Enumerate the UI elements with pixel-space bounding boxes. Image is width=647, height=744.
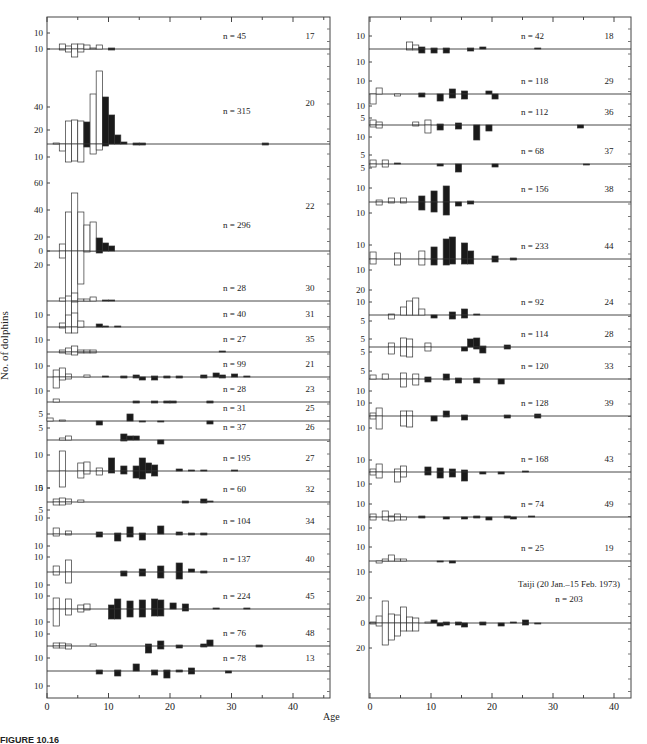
caption-label: FIGURE 10.16 bbox=[0, 735, 59, 744]
y-tick-label: 10 bbox=[34, 310, 44, 320]
school-id-label: 34 bbox=[306, 516, 316, 526]
school-id-label: 22 bbox=[306, 201, 315, 211]
y-tick-label: 10 bbox=[356, 398, 366, 408]
school-26: 5n = 3726 bbox=[39, 422, 331, 440]
figure-caption: FIGURE 10.16 bbox=[0, 735, 59, 744]
school-id-label: 24 bbox=[605, 297, 615, 307]
histogram-bars bbox=[53, 498, 213, 505]
x-tick-label: 20 bbox=[165, 701, 175, 712]
sample-size-label: n = 224 bbox=[223, 591, 251, 601]
sample-size-label: n = 128 bbox=[521, 398, 549, 408]
school-id-label: 38 bbox=[605, 184, 615, 194]
school-id-label: 35 bbox=[306, 334, 316, 344]
sample-size-label: n = 120 bbox=[521, 361, 549, 371]
y-tick-label: 10 bbox=[34, 629, 44, 639]
histogram-bars bbox=[59, 346, 225, 355]
y-tick-label: 10 bbox=[34, 152, 44, 162]
x-tick-label: 20 bbox=[487, 701, 497, 712]
histogram-bars bbox=[47, 414, 213, 425]
y-tick-label: 10 bbox=[34, 541, 44, 551]
x-tick-label: 10 bbox=[426, 701, 436, 712]
y-tick-label: 5 bbox=[361, 347, 366, 357]
sample-size-label: n = 28 bbox=[223, 283, 247, 293]
histogram-bars bbox=[59, 44, 114, 57]
school-id-label: 21 bbox=[306, 359, 315, 369]
school-21: 10n = 9921 bbox=[34, 359, 330, 377]
school-37: 55n = 6837 bbox=[361, 146, 632, 173]
school-location-label: Taiji (20 Jan.–15 Feb. 1973) bbox=[518, 579, 620, 589]
sample-size-label: n = 28 bbox=[223, 384, 247, 394]
y-tick-label: 0 bbox=[361, 618, 366, 628]
sample-size-label: n = 78 bbox=[223, 653, 247, 663]
histogram-bars bbox=[370, 601, 541, 645]
sample-size-label: n = 31 bbox=[223, 403, 246, 413]
y-tick-label: 10 bbox=[356, 132, 366, 142]
y-tick-label: 20 bbox=[34, 260, 44, 270]
y-tick-label: 20 bbox=[356, 285, 366, 295]
sample-size-label: n = 112 bbox=[521, 107, 548, 117]
x-tick-label: 40 bbox=[609, 701, 619, 712]
y-tick-label: 10 bbox=[34, 513, 44, 523]
x-tick-label: 40 bbox=[288, 701, 298, 712]
y-tick-label: 10 bbox=[356, 101, 366, 111]
y-tick-label: 10 bbox=[356, 183, 366, 193]
chart-canvas: 0102030401010n = 4517402010n = 315206040… bbox=[0, 0, 647, 744]
histogram-bars bbox=[59, 193, 114, 322]
y-tick-label: 10 bbox=[356, 455, 366, 465]
sample-size-label: n = 315 bbox=[223, 106, 251, 116]
histogram-bars bbox=[370, 464, 529, 482]
y-tick-label: 5 bbox=[39, 483, 44, 493]
histogram-bars bbox=[370, 237, 516, 265]
histogram-bars bbox=[407, 42, 541, 53]
sample-size-label: n = 137 bbox=[223, 554, 251, 564]
y-tick-label: 10 bbox=[34, 335, 44, 345]
y-tick-label: 5 bbox=[361, 113, 366, 123]
histogram-bars bbox=[376, 186, 474, 215]
histogram-bars bbox=[370, 373, 504, 387]
school-id-label: 44 bbox=[605, 241, 615, 251]
y-tick-label: 10 bbox=[34, 681, 44, 691]
school-29: 1010n = 11829 bbox=[356, 76, 631, 111]
school-32: 55n = 6032 bbox=[39, 483, 331, 515]
y-tick-label: 10 bbox=[34, 591, 44, 601]
sample-size-label: n = 296 bbox=[223, 220, 251, 230]
panel-right: 0102030401010n = 42181010n = 11829510n =… bbox=[356, 17, 631, 712]
y-tick-label: 10 bbox=[356, 265, 366, 275]
y-tick-label: 10 bbox=[356, 523, 366, 533]
y-tick-label: 10 bbox=[34, 450, 44, 460]
y-tick-label: 40 bbox=[34, 205, 44, 215]
y-tick-label: 10 bbox=[356, 567, 366, 577]
school-id-label: 36 bbox=[605, 107, 615, 117]
school-38: 1010n = 15638 bbox=[356, 183, 631, 218]
school-id-label: 45 bbox=[306, 591, 316, 601]
histogram-bars bbox=[370, 160, 590, 172]
school-36: 510n = 11236 bbox=[356, 107, 631, 142]
school-30: n = 2830 bbox=[47, 283, 330, 301]
school-id-label: 26 bbox=[306, 422, 316, 432]
school-23: 10n = 2823 bbox=[34, 384, 330, 402]
y-tick-label: 20 bbox=[356, 643, 366, 653]
y-tick-label: 5 bbox=[39, 409, 44, 419]
sample-size-label: n = 195 bbox=[223, 453, 251, 463]
school-id-label: 48 bbox=[306, 628, 316, 638]
y-tick-label: 40 bbox=[34, 102, 44, 112]
y-tick-label: 10 bbox=[356, 499, 366, 509]
sample-size-label: n = 118 bbox=[521, 76, 549, 86]
x-axis-label: Age bbox=[323, 711, 340, 722]
school-id-label: 43 bbox=[605, 454, 615, 464]
sample-size-label: n = 203 bbox=[555, 594, 583, 604]
y-tick-label: 10 bbox=[34, 44, 44, 54]
histogram-bars bbox=[53, 598, 250, 626]
school-id-label: 30 bbox=[306, 283, 316, 293]
histogram-bars bbox=[370, 120, 584, 140]
y-tick-label: 10 bbox=[34, 386, 44, 396]
school-25: 5n = 3125 bbox=[39, 403, 331, 421]
sample-size-label: n = 27 bbox=[223, 334, 247, 344]
sample-size-label: n = 92 bbox=[521, 297, 544, 307]
histogram-bars bbox=[59, 434, 164, 444]
school-id-label: 32 bbox=[306, 484, 315, 494]
school-id-label: 49 bbox=[605, 499, 615, 509]
y-tick-label: 5 bbox=[361, 316, 366, 326]
y-tick-label: 10 bbox=[34, 653, 44, 663]
x-tick-label: 0 bbox=[45, 701, 50, 712]
